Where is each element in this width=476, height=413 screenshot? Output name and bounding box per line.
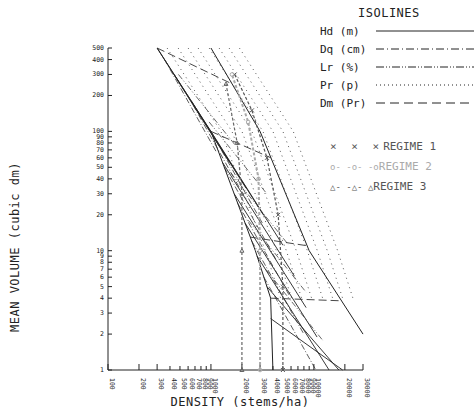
y-tick-label: 5 (100, 283, 104, 291)
legend-item-lr: Lr (%) (320, 60, 476, 74)
y-tick-label: 2 (100, 330, 104, 338)
y-tick-label: 60 (96, 154, 104, 162)
y-tick-label: 500 (92, 44, 104, 52)
x-tick-label: 4000 (273, 378, 281, 394)
x-tick-label: 1000 (211, 378, 219, 394)
y-tick-label: 40 (96, 175, 104, 183)
legend-title: ISOLINES (358, 6, 420, 20)
y-tick-label: 3 (100, 309, 104, 317)
triangle-marker-icon: △- -△- △ (330, 182, 373, 192)
x-tick-label: 600 (188, 378, 196, 390)
y-tick-label: 1 (100, 366, 104, 374)
y-tick-label: 20 (96, 211, 104, 219)
x-tick-label: 3000 (260, 378, 268, 394)
dm-isoline (271, 298, 342, 301)
dash-dot-dot-line-icon (376, 64, 476, 70)
circle-marker-icon: o- -o- -o (330, 162, 379, 172)
dash-dot-line-icon (376, 46, 476, 52)
boundary-line (157, 48, 271, 298)
y-tick-label: 10 (96, 247, 104, 255)
x-tick-label: 400 (170, 378, 178, 390)
y-tick-label: 4 (100, 294, 104, 302)
x-tick-label: 5000 (283, 378, 291, 394)
hd-isoline (267, 287, 339, 370)
legend-item-hd: Hd (m) (320, 24, 476, 38)
legend-item-dq: Dq (cm) (320, 42, 476, 56)
x-tick-label: 300 (157, 378, 165, 390)
legend-regime-2: o- -o- -o REGIME 2 (330, 160, 432, 173)
y-tick-label: 100 (92, 127, 104, 135)
legend-regime-1: × × × REGIME 1 (330, 140, 436, 153)
dq-isoline (165, 60, 217, 153)
y-tick-label: 300 (92, 70, 104, 78)
legend-item-pr: Pr (p) (320, 78, 476, 92)
dotted-line-icon (376, 82, 476, 88)
y-tick-label: 400 (92, 56, 104, 64)
dashed-line-icon (376, 100, 476, 106)
y-tick-label: 50 (96, 163, 104, 171)
y-tick-label: 7 (100, 265, 104, 273)
pr-isoline (198, 48, 312, 298)
lr-isoline (266, 269, 324, 341)
x-tick-label: 200 (139, 378, 147, 390)
triangle-marker-icon (240, 249, 244, 253)
x-marker-icon: × × × (330, 140, 383, 153)
x-tick-label: 100 (108, 378, 116, 390)
y-tick-label: 70 (96, 146, 104, 154)
x-tick-label: 2000 (242, 378, 250, 394)
dq-isoline (211, 131, 263, 224)
x-tick-label: 6000 (291, 378, 299, 394)
y-tick-label: 200 (92, 91, 104, 99)
x-axis-label: DENSITY (stems/ha) (140, 395, 340, 409)
y-axis-label: MEAN VOLUME (cubic dm) (8, 137, 22, 357)
x-tick-label: 20000 (345, 378, 353, 398)
y-tick-label: 6 (100, 273, 104, 281)
regime-path (226, 84, 242, 370)
y-tick-label: 30 (96, 190, 104, 198)
x-tick-label: 500 (180, 378, 188, 390)
regime-path (232, 74, 260, 370)
dq-isoline (224, 167, 276, 260)
hd-isoline (271, 319, 343, 370)
legend-regime-3: △- -△- △ REGIME 3 (330, 180, 426, 193)
legend-item-dm: Dm (Pr) (320, 96, 476, 110)
x-tick-label: 30000 (363, 378, 371, 398)
solid-line-icon (376, 28, 476, 34)
